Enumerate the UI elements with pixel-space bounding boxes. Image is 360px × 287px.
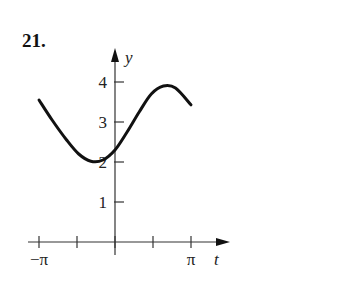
y-axis-arrow-icon — [111, 48, 119, 62]
y-tick-label: 1 — [99, 193, 108, 212]
x-axis-arrow-icon — [216, 238, 230, 246]
y-axis-label: y — [123, 48, 133, 67]
x-axis-label: t — [214, 250, 220, 269]
axes: −ππ1234yt — [28, 48, 230, 269]
y-tick-label: 4 — [99, 73, 108, 92]
chart: −ππ1234yt — [0, 0, 360, 287]
x-tick-label: −π — [30, 250, 49, 269]
y-tick-label: 3 — [99, 113, 108, 132]
x-tick-label: π — [187, 250, 196, 269]
